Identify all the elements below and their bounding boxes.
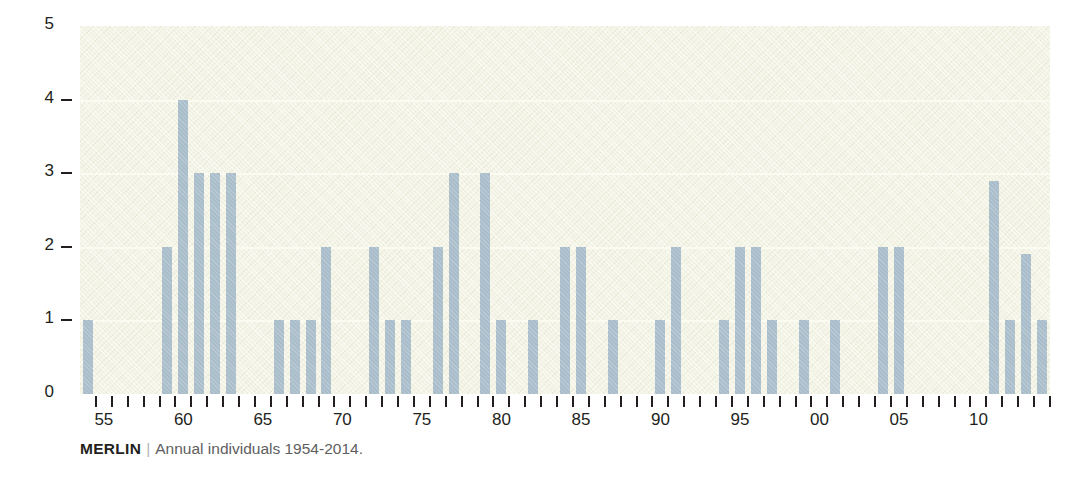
- y-axis-tick-label: 2: [45, 236, 54, 253]
- y-axis-tick: 2: [0, 247, 80, 248]
- x-axis-tick-mark: [651, 396, 653, 407]
- bar: [496, 320, 506, 394]
- y-axis: 012345: [0, 0, 80, 420]
- caption-separator: |: [141, 440, 155, 457]
- x-axis-tick-mark: [588, 396, 590, 407]
- x-axis-tick-label: 95: [730, 411, 749, 428]
- x-axis-tick-label: 60: [174, 411, 193, 428]
- x-axis-tick-label: 85: [571, 411, 590, 428]
- y-axis-tick-label: 0: [45, 383, 54, 400]
- chart-page: 012345 556065707580859095000510 MERLIN|A…: [0, 0, 1082, 484]
- x-axis-tick-label: 00: [810, 411, 829, 428]
- x-axis-tick-mark: [318, 396, 320, 407]
- x-axis-tick-mark: [397, 396, 399, 407]
- x-axis-tick-label: 10: [969, 411, 988, 428]
- x-axis-tick-mark: [699, 396, 701, 407]
- x-axis-tick-mark: [238, 396, 240, 407]
- bar: [480, 173, 490, 394]
- x-axis-tick-mark: [938, 396, 940, 407]
- x-axis-tick-mark: [429, 396, 431, 407]
- x-axis-tick-mark: [556, 396, 558, 407]
- bar: [751, 247, 761, 394]
- x-axis-tick-mark: [604, 396, 606, 407]
- x-axis-tick-mark: [890, 396, 892, 407]
- x-axis-tick-mark: [365, 396, 367, 407]
- y-axis-tick-label: 3: [45, 162, 54, 179]
- x-axis-tick-mark: [906, 396, 908, 407]
- bar: [290, 320, 300, 394]
- x-axis-tick-mark: [779, 396, 781, 407]
- bar: [433, 247, 443, 394]
- bar: [719, 320, 729, 394]
- x-axis-tick-mark: [333, 396, 335, 407]
- x-axis-tick-mark: [572, 396, 574, 407]
- y-axis-tick: 3: [0, 173, 80, 174]
- bar: [1005, 320, 1015, 394]
- bar: [83, 320, 93, 394]
- chart-caption: MERLIN|Annual individuals 1954-2014.: [80, 441, 363, 457]
- x-axis-tick-mark: [143, 396, 145, 407]
- x-axis-tick-label: 75: [412, 411, 431, 428]
- bar: [385, 320, 395, 394]
- bar: [274, 320, 284, 394]
- x-axis-tick-mark: [524, 396, 526, 407]
- x-axis-tick-mark: [174, 396, 176, 407]
- y-axis-tick: 1: [0, 320, 80, 321]
- bar: [799, 320, 809, 394]
- x-axis-tick-mark: [731, 396, 733, 407]
- bar: [655, 320, 665, 394]
- x-axis-tick-mark: [1033, 396, 1035, 407]
- x-axis-tick-mark: [922, 396, 924, 407]
- bar: [894, 247, 904, 394]
- x-axis-tick-label: 05: [889, 411, 908, 428]
- bar: [528, 320, 538, 394]
- x-axis-tick-mark: [206, 396, 208, 407]
- bar: [226, 173, 236, 394]
- x-axis-tick-mark: [874, 396, 876, 407]
- bar: [1021, 254, 1031, 394]
- bar: [830, 320, 840, 394]
- x-axis-tick-mark: [969, 396, 971, 407]
- x-axis-tick-mark: [349, 396, 351, 407]
- x-axis-tick-mark: [461, 396, 463, 407]
- x-axis-tick-mark: [254, 396, 256, 407]
- bar-series: [80, 26, 1050, 394]
- x-axis-tick-mark: [620, 396, 622, 407]
- x-axis-tick-mark: [381, 396, 383, 407]
- bar: [767, 320, 777, 394]
- y-axis-tick-mark: [61, 99, 72, 101]
- x-axis-tick-mark: [190, 396, 192, 407]
- bar: [1037, 320, 1047, 394]
- x-axis-tick-mark: [1049, 396, 1051, 407]
- x-axis-tick-mark: [985, 396, 987, 407]
- y-axis-tick-label: 5: [45, 15, 54, 32]
- bar: [178, 100, 188, 394]
- x-axis-tick-mark: [540, 396, 542, 407]
- caption-source: MERLIN: [80, 440, 141, 457]
- x-axis-tick-mark: [222, 396, 224, 407]
- x-axis-tick-mark: [95, 396, 97, 407]
- x-axis-tick-mark: [826, 396, 828, 407]
- x-axis-tick-mark: [842, 396, 844, 407]
- bar: [878, 247, 888, 394]
- x-axis-tick-mark: [413, 396, 415, 407]
- bar: [449, 173, 459, 394]
- bar: [162, 247, 172, 394]
- x-axis: 556065707580859095000510: [80, 396, 1050, 436]
- x-axis-tick-mark: [270, 396, 272, 407]
- bar: [369, 247, 379, 394]
- x-axis-tick-mark: [954, 396, 956, 407]
- y-axis-tick-label: 4: [45, 89, 54, 106]
- x-axis-tick-label: 90: [651, 411, 670, 428]
- x-axis-tick-mark: [747, 396, 749, 407]
- x-axis-tick-mark: [302, 396, 304, 407]
- x-axis-tick-label: 70: [333, 411, 352, 428]
- bar: [194, 173, 204, 394]
- bar: [210, 173, 220, 394]
- bar: [321, 247, 331, 394]
- bar: [576, 247, 586, 394]
- caption-description: Annual individuals 1954-2014.: [155, 440, 363, 457]
- bar: [401, 320, 411, 394]
- bar: [735, 247, 745, 394]
- y-axis-tick-mark: [61, 246, 72, 248]
